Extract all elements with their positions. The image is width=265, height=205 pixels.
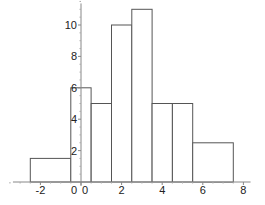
histogram-bar	[172, 104, 192, 183]
y-tick-label: 4	[71, 113, 77, 125]
x-tick-label: -2	[36, 184, 46, 196]
x-tick-label: 2	[119, 184, 125, 196]
y-tick-label: 10	[65, 19, 77, 31]
histogram-chart: -2024682468100	[0, 0, 265, 205]
histogram-bar	[30, 158, 71, 182]
x-tick-label: 4	[159, 184, 165, 196]
y-tick-label: 6	[71, 82, 77, 94]
histogram-bar	[112, 25, 132, 182]
y-tick-label: 8	[71, 50, 77, 62]
x-tick-label: 0	[82, 184, 88, 196]
x-tick-label: 6	[200, 184, 206, 196]
y-tick-label: 2	[71, 145, 77, 157]
histogram-bar	[132, 9, 152, 182]
histogram-bar	[152, 104, 172, 183]
x-tick-label: 8	[240, 184, 246, 196]
histogram-bars	[30, 9, 233, 182]
histogram-bar	[91, 104, 111, 183]
y-zero-label: 0	[71, 184, 77, 196]
histogram-bar	[193, 143, 234, 182]
